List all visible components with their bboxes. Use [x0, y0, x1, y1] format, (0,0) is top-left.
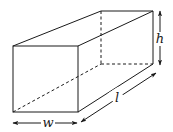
height-dimension: h: [154, 11, 166, 65]
visible-edges: [13, 11, 153, 112]
length-dimension: l: [81, 73, 156, 122]
rectangular-prism-diagram: w l h: [0, 0, 173, 132]
edge-top-right-depth: [78, 11, 153, 46]
edge-top-left-depth: [13, 11, 101, 46]
front-face: [13, 46, 78, 112]
length-label: l: [115, 90, 119, 105]
hidden-edge-bottom-left-depth: [13, 64, 101, 112]
height-label: h: [156, 31, 164, 46]
width-dimension: w: [13, 115, 77, 130]
width-label: w: [42, 115, 53, 130]
hidden-edges: [13, 11, 153, 112]
